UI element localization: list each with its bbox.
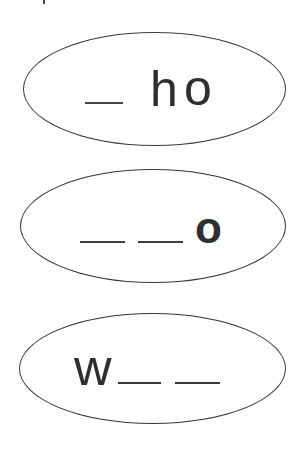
blank-slot [175,382,220,384]
blank-slot [138,241,183,243]
letter-o-bold: o [195,206,222,250]
cropped-text-remnant [43,0,45,4]
letter-h: h [150,64,178,114]
blank-slot [118,382,161,384]
letter-o: o [184,63,212,113]
oval-3 [19,313,286,424]
oval-2 [20,169,286,283]
blank-slot [85,102,123,104]
letter-w: w [74,341,112,393]
blank-slot [80,241,125,243]
worksheet-page: h o o w [0,0,303,455]
